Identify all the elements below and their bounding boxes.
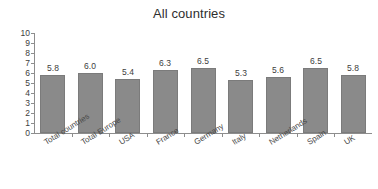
bar-value-label: 5.8: [339, 64, 367, 73]
y-axis-tick: [31, 133, 35, 134]
y-axis-tick: [31, 73, 35, 74]
x-axis-category-label: UK: [343, 134, 357, 147]
bar[interactable]: [153, 70, 178, 133]
x-axis-tick: [72, 134, 73, 137]
x-axis-tick: [259, 134, 260, 137]
y-axis-tick: [31, 83, 35, 84]
bar[interactable]: [40, 75, 65, 133]
y-axis-tick: [31, 43, 35, 44]
y-axis-tick-label: 7: [8, 59, 30, 68]
y-axis-tick: [31, 123, 35, 124]
x-axis-tick: [109, 134, 110, 137]
bar[interactable]: [341, 75, 366, 133]
x-axis-tick: [222, 134, 223, 137]
bar-value-label: 5.8: [39, 64, 67, 73]
y-axis-tick: [31, 103, 35, 104]
x-axis-tick: [147, 134, 148, 137]
y-axis-tick-label: 2: [8, 109, 30, 118]
bar-value-label: 6.5: [189, 57, 217, 66]
bar-chart: All countries 109876543210 5.86.05.46.36…: [0, 0, 378, 189]
chart-title: All countries: [0, 6, 378, 21]
bar-value-label: 6.5: [302, 57, 330, 66]
y-axis-tick-label: 8: [8, 49, 30, 58]
y-axis-tick: [31, 33, 35, 34]
y-axis-tick-label: 10: [8, 29, 30, 38]
y-axis-tick-label: 9: [8, 39, 30, 48]
y-axis-tick-label: 1: [8, 119, 30, 128]
y-axis-tick-label: 5: [8, 79, 30, 88]
bar-value-label: 5.4: [114, 68, 142, 77]
x-axis-category-label: Italy: [231, 132, 248, 147]
bar-value-label: 6.0: [76, 62, 104, 71]
bar-value-label: 5.6: [264, 66, 292, 75]
y-axis-tick: [31, 63, 35, 64]
bar[interactable]: [228, 80, 253, 133]
bar-value-label: 6.3: [151, 59, 179, 68]
bar[interactable]: [191, 68, 216, 133]
bar[interactable]: [266, 77, 291, 133]
y-axis-tick-label: 4: [8, 89, 30, 98]
y-axis-tick: [31, 53, 35, 54]
x-axis-tick: [334, 134, 335, 137]
y-axis-tick-label: 0: [8, 129, 30, 138]
y-axis-tick-label: 3: [8, 99, 30, 108]
x-axis-tick: [184, 134, 185, 137]
y-axis-tick-label: 6: [8, 69, 30, 78]
y-axis-tick: [31, 113, 35, 114]
bar-value-label: 5.3: [227, 69, 255, 78]
x-axis-tick: [297, 134, 298, 137]
y-axis-tick: [31, 93, 35, 94]
